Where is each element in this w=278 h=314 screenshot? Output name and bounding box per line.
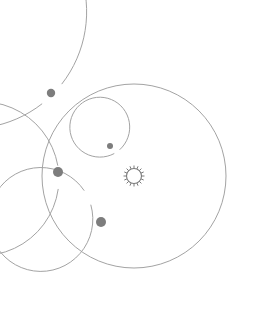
orrery-diagram <box>0 0 278 314</box>
planet-outer <box>47 89 55 97</box>
sun-ray-icon <box>141 172 143 173</box>
sun-ray-icon <box>137 183 138 185</box>
planet-lower <box>96 217 106 227</box>
diagram-background <box>0 0 278 314</box>
sun-ray-icon <box>141 179 143 180</box>
sun-ray-icon <box>125 179 127 180</box>
planet-left <box>53 167 63 177</box>
sun-ray-icon <box>137 167 138 169</box>
planet-inner <box>107 143 113 149</box>
sun-ray-icon <box>130 167 131 169</box>
sun-ray-icon <box>130 183 131 185</box>
sun-ray-icon <box>125 172 127 173</box>
orrery-canvas <box>0 0 278 314</box>
